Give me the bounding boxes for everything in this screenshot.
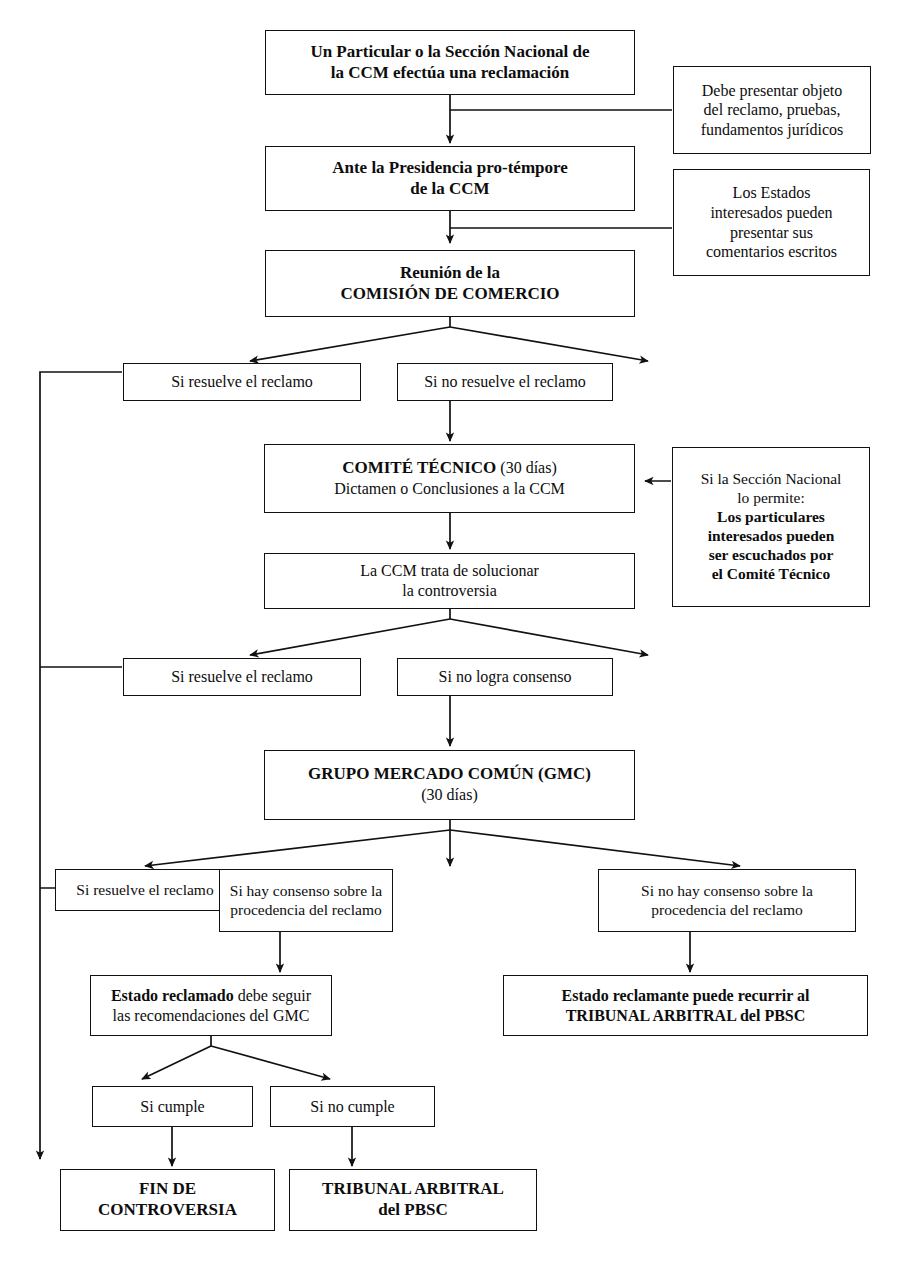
note-particulares-line2: lo permite: — [737, 489, 805, 506]
note-estados-line4: comentarios escritos — [706, 243, 837, 260]
node-si-cumple: Si cumple — [92, 1086, 253, 1127]
note-particulares: Si la Sección Nacional lo permite: Los p… — [672, 447, 870, 607]
note-pruebas: Debe presentar objeto del reclamo, prueb… — [673, 66, 871, 154]
node-gmc-line1: GRUPO MERCADO COMÚN (GMC) — [308, 764, 591, 783]
note-particulares-line1: Si la Sección Nacional — [701, 470, 842, 487]
node-ccm-no-resuelve: Si no resuelve el reclamo — [397, 363, 613, 401]
node-si-no-cumple: Si no cumple — [270, 1086, 435, 1127]
node-reclamacion: Un Particular o la Sección Nacional de l… — [265, 30, 635, 95]
node-tribunal-line2: del PBSC — [378, 1200, 447, 1219]
node-gmc-no-consenso-line2: procedencia del reclamo — [651, 901, 802, 918]
note-particulares-line5: ser escuchados por — [709, 546, 834, 563]
node-estado-reclamante: Estado reclamante puede recurrir al TRIB… — [503, 975, 868, 1036]
node-ccm-soluciona: La CCM trata de solucionar la controvers… — [264, 553, 635, 609]
node-ct-resuelve: Si resuelve el reclamo — [123, 658, 361, 696]
node-estado-reclamante-line1: Estado reclamante puede recurrir al — [562, 987, 810, 1004]
node-comite-tecnico-days: (30 días) — [496, 459, 556, 476]
node-ct-resuelve-label: Si resuelve el reclamo — [130, 667, 354, 687]
node-gmc-consenso-line2: procedencia del reclamo — [230, 901, 381, 918]
node-presidencia: Ante la Presidencia pro-témpore de la CC… — [265, 146, 635, 211]
node-tribunal-arbitral: TRIBUNAL ARBITRAL del PBSC — [289, 1169, 537, 1231]
node-reclamacion-line2: la CCM efectúa una reclamación — [331, 63, 570, 82]
node-estado-reclamante-line2: TRIBUNAL ARBITRAL del PBSC — [566, 1007, 806, 1024]
note-estados: Los Estados interesados pueden presentar… — [673, 169, 870, 276]
node-gmc: GRUPO MERCADO COMÚN (GMC) (30 días) — [264, 750, 635, 820]
note-particulares-line4: interesados pueden — [708, 527, 835, 544]
node-gmc-consenso-line1: Si hay consenso sobre la — [230, 882, 382, 899]
flowchart-canvas: Un Particular o la Sección Nacional de l… — [0, 0, 899, 1263]
node-gmc-consenso: Si hay consenso sobre la procedencia del… — [219, 869, 393, 932]
node-estado-reclamado: Estado reclamado debe seguir las recomen… — [90, 975, 332, 1036]
node-comision-line1: Reunión de la — [400, 263, 500, 282]
node-ccm-no-resuelve-label: Si no resuelve el reclamo — [404, 372, 606, 392]
node-fin-controversia: FIN DE CONTROVERSIA — [60, 1169, 275, 1231]
node-fin-line1: FIN DE — [139, 1179, 196, 1198]
node-comite-tecnico: COMITÉ TÉCNICO (30 días) Dictamen o Conc… — [264, 444, 635, 513]
node-gmc-line2: (30 días) — [421, 786, 477, 803]
node-estado-reclamado-subject: Estado reclamado — [111, 987, 234, 1004]
node-ct-no-consenso: Si no logra consenso — [397, 658, 613, 696]
note-estados-line1: Los Estados — [733, 184, 811, 201]
node-reclamacion-line1: Un Particular o la Sección Nacional de — [310, 42, 589, 61]
node-ccm-soluciona-line2: la controversia — [402, 582, 497, 599]
node-si-no-cumple-label: Si no cumple — [277, 1097, 428, 1117]
node-gmc-no-consenso-line1: Si no hay consenso sobre la — [641, 882, 813, 899]
node-comision-line2: COMISIÓN DE COMERCIO — [340, 284, 559, 303]
node-presidencia-line1: Ante la Presidencia pro-témpore — [332, 158, 568, 177]
node-tribunal-line1: TRIBUNAL ARBITRAL — [322, 1179, 504, 1198]
node-fin-line2: CONTROVERSIA — [98, 1200, 237, 1219]
node-estado-reclamado-rest: debe seguir — [234, 987, 311, 1004]
node-si-cumple-label: Si cumple — [99, 1097, 246, 1117]
node-ccm-resuelve-label: Si resuelve el reclamo — [130, 372, 354, 392]
node-comite-tecnico-line2: Dictamen o Conclusiones a la CCM — [334, 480, 565, 497]
node-estado-reclamado-line2: las recomendaciones del GMC — [113, 1007, 310, 1024]
node-gmc-no-consenso: Si no hay consenso sobre la procedencia … — [598, 869, 856, 932]
note-estados-line3: presentar sus — [730, 224, 813, 241]
node-comision-comercio: Reunión de la COMISIÓN DE COMERCIO — [265, 250, 635, 317]
node-ct-no-consenso-label: Si no logra consenso — [404, 667, 606, 687]
note-pruebas-line2: del reclamo, pruebas, — [704, 101, 841, 118]
node-presidencia-line2: de la CCM — [410, 179, 489, 198]
note-particulares-line6: el Comité Técnico — [712, 565, 831, 582]
note-pruebas-line3: fundamentos jurídicos — [701, 121, 844, 138]
note-estados-line2: interesados pueden — [710, 204, 832, 221]
node-comite-tecnico-title: COMITÉ TÉCNICO — [342, 458, 496, 477]
node-ccm-resuelve: Si resuelve el reclamo — [123, 363, 361, 401]
note-pruebas-line1: Debe presentar objeto — [702, 82, 842, 99]
node-gmc-resuelve-label: Si resuelve el reclamo — [62, 881, 228, 900]
note-particulares-line3: Los particulares — [717, 508, 825, 525]
node-gmc-resuelve: Si resuelve el reclamo — [55, 869, 235, 911]
node-ccm-soluciona-line1: La CCM trata de solucionar — [360, 562, 539, 579]
